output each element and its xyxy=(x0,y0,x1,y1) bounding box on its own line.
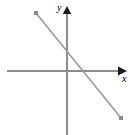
graph-canvas xyxy=(0,0,136,135)
line-endpoint-marker-bottom xyxy=(119,116,123,120)
plotted-line xyxy=(36,13,121,118)
y-axis-label: y xyxy=(57,3,61,13)
x-axis-label: x xyxy=(122,74,126,84)
line-endpoint-marker-top xyxy=(34,11,38,15)
coordinate-plane-figure: y x xyxy=(0,0,136,135)
arrow-up-icon xyxy=(63,6,71,14)
